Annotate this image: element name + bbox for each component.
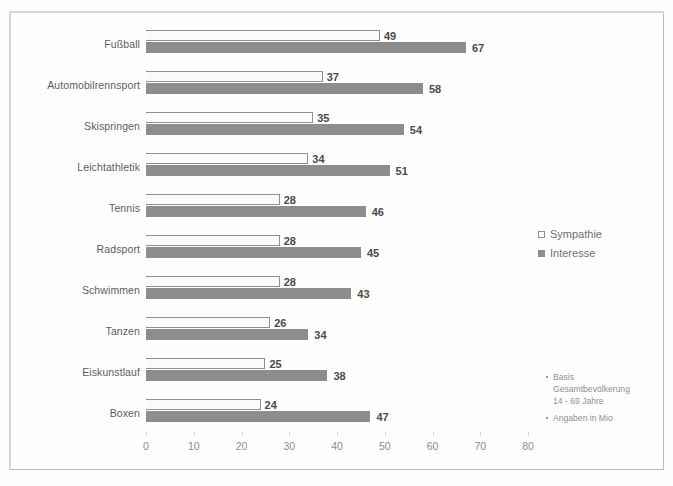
chart-note: Angaben in Mio <box>546 413 668 425</box>
bar-value-interesse: 46 <box>372 206 384 218</box>
bar-interesse <box>146 288 351 299</box>
axis-tick-label: 60 <box>427 440 439 452</box>
axis-tick-label: 50 <box>379 440 391 452</box>
value-axis: 01020304050607080 <box>146 432 528 458</box>
bar-group-sympathie: 26 <box>146 317 528 328</box>
bar-group-interesse: 51 <box>146 165 528 176</box>
axis-tick-mark <box>433 432 434 436</box>
bar-value-interesse: 51 <box>396 165 408 177</box>
bar-group-sympathie: 28 <box>146 194 528 205</box>
open-square-icon <box>538 231 545 238</box>
axis-tick-mark <box>337 432 338 436</box>
bar-sympathie <box>146 112 313 123</box>
axis-tick-mark <box>385 432 386 436</box>
bar-group-interesse: 67 <box>146 42 528 53</box>
bar-group-sympathie: 37 <box>146 71 528 82</box>
chart-note-line: 14 - 69 Jahre <box>553 396 668 408</box>
bar-interesse <box>146 165 390 176</box>
bar-value-sympathie: 49 <box>384 30 396 42</box>
bar-group-interesse: 47 <box>146 411 528 422</box>
category-label: Automobilrennsport <box>14 79 140 91</box>
bar-interesse <box>146 124 404 135</box>
bar-group-interesse: 34 <box>146 329 528 340</box>
bar-value-interesse: 67 <box>472 42 484 54</box>
bar-group-interesse: 54 <box>146 124 528 135</box>
bar-sympathie <box>146 235 280 246</box>
bar-value-interesse: 34 <box>314 329 326 341</box>
category-axis: FußballAutomobilrennsportSkispringenLeic… <box>14 22 140 432</box>
axis-tick-label: 40 <box>331 440 343 452</box>
filled-square-icon <box>538 250 545 257</box>
bar-value-sympathie: 26 <box>274 317 286 329</box>
bar-value-interesse: 47 <box>376 411 388 423</box>
bar-value-sympathie: 24 <box>265 399 277 411</box>
axis-tick-mark <box>480 432 481 436</box>
axis-tick-mark <box>289 432 290 436</box>
bar-sympathie <box>146 194 280 205</box>
axis-tick-label: 30 <box>283 440 295 452</box>
bar-sympathie <box>146 317 270 328</box>
category-label: Tanzen <box>14 325 140 337</box>
category-label: Boxen <box>14 407 140 419</box>
bar-group-sympathie: 35 <box>146 112 528 123</box>
category-label: Schwimmen <box>14 284 140 296</box>
chart-screenshot: FußballAutomobilrennsportSkispringenLeic… <box>0 0 673 486</box>
bar-group-sympathie: 28 <box>146 276 528 287</box>
category-label: Skispringen <box>14 120 140 132</box>
bar-value-sympathie: 28 <box>284 235 296 247</box>
bar-group-interesse: 46 <box>146 206 528 217</box>
bar-interesse <box>146 370 327 381</box>
chart-legend: SympathieInteresse <box>538 228 658 266</box>
axis-tick-label: 20 <box>236 440 248 452</box>
bar-sympathie <box>146 358 265 369</box>
chart-notes: BasisGesamtbevölkerung14 - 69 JahreAngab… <box>546 372 668 429</box>
bar-value-sympathie: 35 <box>317 112 329 124</box>
bar-group-interesse: 38 <box>146 370 528 381</box>
axis-tick-label: 70 <box>474 440 486 452</box>
legend-item: Interesse <box>538 247 658 259</box>
bullet-icon <box>546 376 548 378</box>
bar-value-sympathie: 37 <box>327 71 339 83</box>
chart-note-line: Basis <box>553 372 668 384</box>
legend-item: Sympathie <box>538 228 658 240</box>
category-label: Radsport <box>14 243 140 255</box>
bar-group-sympathie: 28 <box>146 235 528 246</box>
bar-interesse <box>146 42 466 53</box>
bar-interesse <box>146 329 308 340</box>
bar-value-sympathie: 25 <box>269 358 281 370</box>
bar-sympathie <box>146 399 261 410</box>
bar-sympathie <box>146 71 323 82</box>
category-label: Tennis <box>14 202 140 214</box>
bar-value-sympathie: 28 <box>284 194 296 206</box>
chart-note: BasisGesamtbevölkerung14 - 69 Jahre <box>546 372 668 408</box>
axis-tick-mark <box>146 432 147 436</box>
bar-value-interesse: 58 <box>429 83 441 95</box>
bar-group-interesse: 45 <box>146 247 528 258</box>
axis-tick-mark <box>528 432 529 436</box>
category-label: Leichtathletik <box>14 161 140 173</box>
plot-area: 4967375835543451284628452843263425382447 <box>146 22 528 432</box>
legend-label: Sympathie <box>550 228 602 240</box>
bar-value-interesse: 54 <box>410 124 422 136</box>
category-label: Eiskunstlauf <box>14 366 140 378</box>
axis-tick-mark <box>242 432 243 436</box>
bar-value-interesse: 43 <box>357 288 369 300</box>
bar-sympathie <box>146 276 280 287</box>
legend-label: Interesse <box>550 247 595 259</box>
bar-group-sympathie: 49 <box>146 30 528 41</box>
bar-value-sympathie: 34 <box>312 153 324 165</box>
bar-interesse <box>146 206 366 217</box>
bar-interesse <box>146 247 361 258</box>
bar-group-sympathie: 25 <box>146 358 528 369</box>
bar-value-interesse: 45 <box>367 247 379 259</box>
axis-tick-mark <box>194 432 195 436</box>
bar-group-sympathie: 34 <box>146 153 528 164</box>
bar-value-sympathie: 28 <box>284 276 296 288</box>
bar-sympathie <box>146 153 308 164</box>
bar-group-interesse: 58 <box>146 83 528 94</box>
bar-group-interesse: 43 <box>146 288 528 299</box>
bar-interesse <box>146 411 370 422</box>
bar-sympathie <box>146 30 380 41</box>
axis-tick-label: 10 <box>188 440 200 452</box>
bar-value-interesse: 38 <box>333 370 345 382</box>
